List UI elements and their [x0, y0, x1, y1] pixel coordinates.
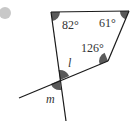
label-126: 126°	[81, 41, 104, 55]
top-edge	[51, 11, 129, 12]
bottom-line	[19, 61, 108, 98]
bullet-marker	[0, 7, 11, 19]
label-61: 61°	[99, 16, 116, 30]
angle-diagram: 82° 61° 126° l m	[0, 0, 140, 132]
label-82: 82°	[62, 18, 79, 32]
label-l: l	[68, 56, 72, 70]
label-m: m	[46, 92, 55, 106]
